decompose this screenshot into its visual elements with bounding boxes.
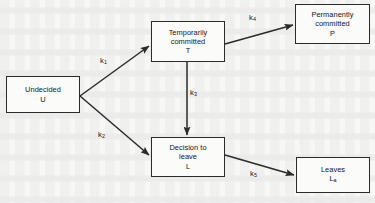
node-temporarily-committed-symbol: T (186, 46, 191, 55)
edge-label-k1-subscript: 1 (104, 59, 107, 65)
node-undecided: Undecided U (6, 76, 80, 113)
node-permanently-committed-line-0: Permanently (311, 10, 353, 19)
edge-label-k3: k3 (190, 89, 197, 98)
diagram-canvas: Undecided U Temporarily committed T Perm… (0, 0, 375, 203)
node-leaves: Leaves La (296, 157, 370, 193)
edge-label-k1: k1 (100, 57, 107, 66)
node-temporarily-committed: Temporarily committed T (151, 21, 225, 62)
edge-label-k4: k4 (249, 14, 256, 23)
node-permanently-committed-line-1: committed (315, 19, 350, 28)
edge-label-k2-subscript: 2 (102, 133, 105, 139)
edge-k5-line (225, 155, 294, 175)
node-leaves-symbol: La (329, 174, 336, 185)
edge-label-k5: k5 (250, 170, 257, 179)
edge-label-k3-subscript: 3 (194, 91, 197, 97)
node-permanently-committed: Permanently committed P (295, 4, 370, 44)
node-decision-to-leave-line-1: leave (179, 152, 197, 161)
node-permanently-committed-symbol: P (330, 29, 335, 38)
edge-label-k2: k2 (98, 131, 105, 140)
edge-label-k4-subscript: 4 (253, 16, 256, 22)
node-temporarily-committed-line-1: committed (171, 37, 206, 46)
node-leaves-symbol-subscript: a (334, 177, 337, 183)
edge-k4-line (225, 25, 293, 44)
node-decision-to-leave-symbol: L (186, 162, 190, 171)
node-temporarily-committed-line-0: Temporarily (169, 28, 208, 37)
node-decision-to-leave: Decision to leave L (151, 137, 225, 177)
node-undecided-line-0: Undecided (25, 85, 61, 94)
node-leaves-line-0: Leaves (321, 165, 345, 174)
node-undecided-symbol: U (40, 95, 45, 104)
node-decision-to-leave-line-0: Decision to (169, 143, 206, 152)
edge-label-k5-subscript: 5 (254, 172, 257, 178)
edge-k2-line (80, 96, 149, 155)
edge-k1-line (80, 46, 149, 96)
